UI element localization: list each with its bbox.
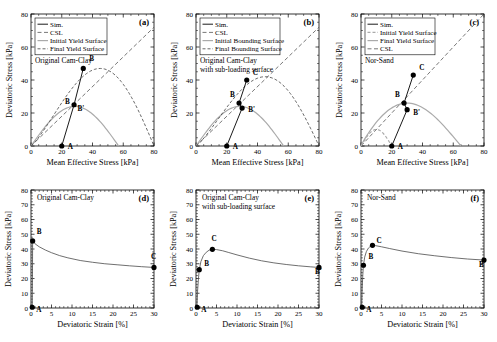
y-tick-label: 80 bbox=[186, 187, 194, 195]
y-tick-label: 80 bbox=[351, 11, 359, 19]
y-tick-label: 20 bbox=[21, 275, 29, 283]
x-tick-label: 20 bbox=[223, 148, 231, 156]
x-tick-label: 15 bbox=[89, 310, 97, 318]
legend-label: Final Bounding Surface bbox=[215, 45, 282, 53]
model-label: Nor-Sand bbox=[365, 56, 394, 65]
x-tick-label: 60 bbox=[120, 148, 128, 156]
x-tick-label: 20 bbox=[275, 310, 283, 318]
x-tick-label: 0 bbox=[194, 310, 198, 318]
data-point bbox=[360, 305, 365, 310]
x-tick-label: 20 bbox=[440, 310, 448, 318]
data-point bbox=[151, 265, 156, 270]
y-axis-label: Deviatoric Stress [kPa] bbox=[169, 211, 178, 287]
panel-letter: (d) bbox=[139, 193, 150, 203]
data-point bbox=[370, 243, 375, 248]
point-label: A bbox=[201, 306, 207, 314]
point-label: C bbox=[376, 237, 381, 245]
data-point bbox=[30, 305, 35, 310]
y-tick-label: 40 bbox=[21, 77, 29, 85]
x-tick-label: 80 bbox=[316, 148, 324, 156]
y-tick-label: 80 bbox=[21, 11, 29, 19]
x-tick-label: 10 bbox=[69, 310, 77, 318]
legend-label: Sim. bbox=[215, 21, 228, 29]
model-label-line2: with sub-loading surface bbox=[202, 202, 276, 211]
legend-label: Initial Yield Surface bbox=[380, 29, 437, 37]
y-tick-label: 80 bbox=[21, 187, 29, 195]
point-label: C bbox=[151, 253, 156, 261]
model-label: Original Cam-Clay bbox=[35, 56, 92, 65]
y-tick-label: 60 bbox=[351, 44, 359, 52]
y-tick-label: 70 bbox=[351, 201, 359, 209]
point-label: C bbox=[419, 64, 424, 72]
x-tick-label: 30 bbox=[151, 310, 159, 318]
point-label: B bbox=[395, 91, 400, 99]
y-axis-label: Deviatoric Stress [kPa] bbox=[335, 42, 344, 118]
y-tick-label: 80 bbox=[351, 187, 359, 195]
legend-label: Initial Bounding Surface bbox=[215, 37, 284, 45]
y-tick-label: 20 bbox=[351, 110, 359, 118]
x-axis-label: Deviatoric Strain [%] bbox=[222, 320, 293, 329]
y-tick-label: 60 bbox=[21, 44, 29, 52]
x-tick-label: 0 bbox=[359, 148, 363, 156]
legend-label: CSL bbox=[50, 29, 63, 37]
y-tick-label: 0 bbox=[355, 305, 359, 313]
legend-label: Initial Yield Surface bbox=[50, 37, 107, 45]
y-tick-label: 60 bbox=[186, 216, 194, 224]
y-tick-label: 0 bbox=[25, 305, 29, 313]
point-label: B' bbox=[78, 105, 85, 113]
x-tick-label: 25 bbox=[460, 310, 468, 318]
data-point bbox=[361, 263, 366, 268]
x-axis-label: Deviatoric Strain [%] bbox=[387, 320, 458, 329]
panel-letter: (a) bbox=[139, 17, 149, 27]
legend-label: CSL bbox=[380, 45, 393, 53]
y-tick-label: 80 bbox=[186, 11, 194, 19]
panel-a: 020406080020406080Mean Effective Stress … bbox=[5, 11, 158, 168]
data-point bbox=[81, 66, 86, 71]
x-tick-label: 0 bbox=[29, 148, 33, 156]
x-axis-label: Mean Effective Stress [kPa] bbox=[212, 158, 304, 167]
panel-c: 020406080020406080Mean Effective Stress … bbox=[335, 11, 488, 168]
y-tick-label: 20 bbox=[21, 110, 29, 118]
x-axis-label: Mean Effective Stress [kPa] bbox=[47, 158, 139, 167]
y-tick-label: 10 bbox=[21, 290, 29, 298]
y-tick-label: 40 bbox=[351, 77, 359, 85]
plot-frame bbox=[361, 190, 484, 308]
point-label: B bbox=[37, 228, 42, 236]
x-tick-label: 5 bbox=[215, 310, 219, 318]
y-tick-label: 50 bbox=[186, 231, 194, 239]
panel-b: 020406080020406080Mean Effective Stress … bbox=[170, 11, 323, 168]
point-label: B bbox=[230, 91, 235, 99]
point-label: B' bbox=[413, 109, 420, 117]
point-label: C bbox=[211, 235, 216, 243]
panel-letter: (e) bbox=[305, 193, 315, 203]
panel-f: 05101520253001020304050607080Deviatoric … bbox=[334, 187, 488, 330]
data-point bbox=[224, 143, 229, 148]
point-label: A bbox=[398, 143, 404, 151]
point-label: A bbox=[68, 143, 74, 151]
point-label: B' bbox=[248, 106, 255, 114]
data-point bbox=[240, 105, 245, 110]
y-tick-label: 60 bbox=[351, 216, 359, 224]
legend-label: Sim. bbox=[50, 21, 63, 29]
x-tick-label: 20 bbox=[58, 148, 66, 156]
y-tick-label: 10 bbox=[186, 290, 194, 298]
x-tick-label: 80 bbox=[481, 148, 489, 156]
legend-label: Sim. bbox=[380, 21, 393, 29]
y-tick-label: 20 bbox=[351, 275, 359, 283]
x-tick-label: 25 bbox=[295, 310, 303, 318]
y-tick-label: 50 bbox=[21, 231, 29, 239]
y-tick-label: 20 bbox=[186, 275, 194, 283]
x-tick-label: 10 bbox=[399, 310, 407, 318]
x-tick-label: 10 bbox=[234, 310, 242, 318]
x-tick-label: 60 bbox=[285, 148, 293, 156]
data-point bbox=[236, 101, 241, 106]
panel-e: 05101520253001020304050607080Deviatoric … bbox=[169, 187, 323, 330]
x-tick-label: 60 bbox=[450, 148, 458, 156]
data-point bbox=[411, 72, 416, 77]
x-tick-label: 20 bbox=[388, 148, 396, 156]
model-label: Original Cam-Clay bbox=[37, 193, 94, 202]
y-tick-label: 20 bbox=[186, 110, 194, 118]
point-label: B' bbox=[315, 268, 322, 276]
point-label: B' bbox=[479, 261, 486, 269]
y-axis-label: Deviatoric Stress [kPa] bbox=[4, 211, 13, 287]
